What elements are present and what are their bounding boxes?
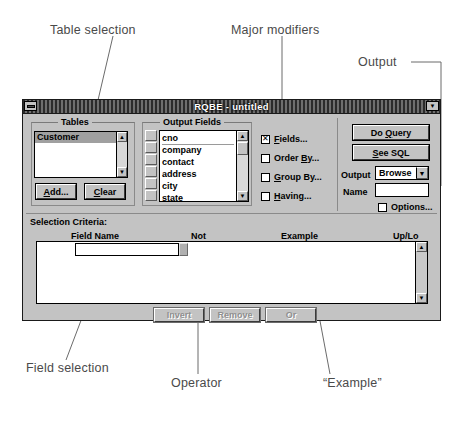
list-item[interactable]: address <box>160 168 236 180</box>
tables-group-label: Tables <box>58 117 92 127</box>
column-header-example: Example <box>281 231 318 241</box>
list-item[interactable]: city <box>160 180 236 192</box>
see-sql-button[interactable]: See SQL <box>353 145 429 160</box>
scroll-down-arrow[interactable]: ▼ <box>117 167 127 177</box>
checkbox-box[interactable] <box>261 192 270 201</box>
output-label: Output <box>341 170 371 180</box>
name-field[interactable] <box>375 183 429 197</box>
list-item[interactable]: contact <box>160 156 236 168</box>
output-dropdown-value: Browse <box>376 168 412 178</box>
checkbox-options-label: Options... <box>391 202 433 212</box>
checkbox-having[interactable]: Having... <box>261 191 312 201</box>
list-item[interactable]: Customer <box>35 132 120 143</box>
list-item[interactable]: company <box>160 144 236 156</box>
section-divider <box>26 213 437 214</box>
list-item[interactable]: cno <box>160 132 236 144</box>
dropdown-arrow-icon[interactable]: ▼ <box>416 167 428 179</box>
do-query-button[interactable]: Do Query <box>353 125 429 140</box>
move-handle-icon[interactable] <box>145 154 157 165</box>
annotation-output: Output <box>358 55 397 69</box>
column-header-field-name: Field Name <box>71 231 119 241</box>
output-panel-divider <box>337 118 338 211</box>
checkbox-group-by-label: Group By... <box>274 172 322 182</box>
scroll-up-arrow[interactable]: ▲ <box>117 132 127 142</box>
selection-criteria-label: Selection Criteria: <box>30 217 107 227</box>
see-sql-label: See SQL <box>372 148 409 158</box>
invert-button-label: Invert <box>167 310 192 320</box>
column-header-not: Not <box>191 231 206 241</box>
add-button-label: Add... <box>44 187 69 197</box>
move-handle-icon[interactable] <box>145 178 157 189</box>
name-label: Name <box>343 187 368 197</box>
output-fields-listbox[interactable]: cno company contact address city state ▲… <box>159 130 249 202</box>
remove-button-label: Remove <box>217 310 252 320</box>
scroll-down-arrow[interactable]: ▼ <box>237 191 248 201</box>
list-item[interactable]: state <box>160 192 236 202</box>
scrollbar-thumb[interactable] <box>237 142 248 155</box>
checkbox-box[interactable]: ✕ <box>261 135 270 144</box>
clear-button[interactable]: Clear <box>85 184 125 199</box>
clear-button-label: Clear <box>94 187 117 197</box>
checkbox-box[interactable] <box>378 203 387 212</box>
move-handle-icon[interactable] <box>145 142 157 153</box>
field-name-input[interactable] <box>75 243 179 256</box>
annotation-field-selection: Field selection <box>26 361 109 375</box>
scroll-up-arrow[interactable]: ▲ <box>237 131 248 141</box>
do-query-label: Do Query <box>371 128 412 138</box>
checkbox-box[interactable] <box>261 154 270 163</box>
checkbox-having-label: Having... <box>274 191 312 201</box>
output-dropdown[interactable]: Browse ▼ <box>375 166 429 180</box>
criteria-grid[interactable]: ▲ ▼ <box>36 241 428 304</box>
window-client-area: Tables Customer ▲ ▼ Add... Clear Output … <box>23 114 440 320</box>
annotation-example: “Example” <box>323 376 382 390</box>
output-fields-scrollbar[interactable]: ▲ ▼ <box>236 131 248 201</box>
or-button-label: Or <box>286 310 297 320</box>
output-fields-group-label: Output Fields <box>160 117 224 127</box>
checkbox-fields[interactable]: ✕ Fields... <box>261 134 308 144</box>
remove-button[interactable]: Remove <box>210 308 260 322</box>
move-handle-icon[interactable] <box>145 190 157 201</box>
system-menu-icon[interactable] <box>24 101 37 111</box>
annotation-table-selection: Table selection <box>50 23 136 37</box>
move-handle-icon[interactable] <box>145 130 157 141</box>
tables-listbox[interactable]: Customer ▲ ▼ <box>34 131 128 178</box>
restore-down-icon[interactable]: ▼ <box>426 101 439 111</box>
annotation-major-modifiers: Major modifiers <box>231 23 319 37</box>
checkbox-order-by[interactable]: Order By... <box>261 153 319 163</box>
checkbox-fields-label: Fields... <box>274 134 308 144</box>
scroll-down-arrow[interactable]: ▼ <box>416 293 427 303</box>
checkbox-group-by[interactable]: Group By... <box>261 172 322 182</box>
output-fields-move-handles <box>145 130 157 202</box>
scroll-up-arrow[interactable]: ▲ <box>416 242 427 252</box>
window-title: RQBE - untitled <box>188 101 275 112</box>
title-bar[interactable]: RQBE - untitled ▼ <box>23 100 440 114</box>
column-header-up-lo: Up/Lo <box>393 231 419 241</box>
tables-scrollbar[interactable]: ▲ ▼ <box>116 132 127 177</box>
checkbox-options[interactable]: Options... <box>378 202 433 212</box>
checkbox-box[interactable] <box>261 173 270 182</box>
add-button[interactable]: Add... <box>36 184 76 199</box>
annotation-operator: Operator <box>171 376 222 390</box>
or-button[interactable]: Or <box>266 308 316 322</box>
rqbe-window: RQBE - untitled ▼ Tables Customer ▲ ▼ Ad… <box>22 99 441 321</box>
invert-button[interactable]: Invert <box>154 308 204 322</box>
checkbox-order-by-label: Order By... <box>274 153 319 163</box>
field-picker-button[interactable] <box>179 243 188 256</box>
criteria-scrollbar[interactable]: ▲ ▼ <box>415 242 427 303</box>
move-handle-icon[interactable] <box>145 166 157 177</box>
